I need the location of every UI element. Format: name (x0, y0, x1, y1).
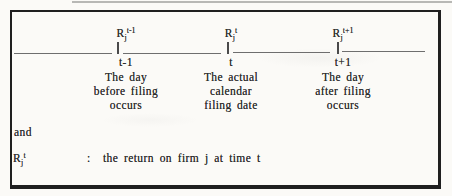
symbol-sup: t-1 (127, 26, 136, 35)
desc-line: occurs (278, 98, 408, 112)
scan-artifact-line (72, 1, 452, 3)
desc-line: after filing (278, 84, 408, 98)
symbol-base: R (13, 152, 21, 164)
symbol-sup: t+1 (343, 26, 354, 35)
point-description: The actual calendar filing date (166, 70, 296, 112)
time-label: t+1 (278, 56, 408, 70)
symbol-sup: t (235, 26, 237, 35)
timeline-point-t-plus-1: Rjt+1 t+1 The day after filing occurs (278, 24, 408, 112)
symbol-base: R (332, 27, 340, 39)
symbol-sup: t (24, 151, 27, 160)
colon-separator: : (87, 152, 90, 164)
point-description: The day after filing occurs (278, 70, 408, 112)
return-symbol: Rjt+1 (278, 24, 408, 39)
definition-text: the return on firm j at time t (103, 152, 261, 164)
desc-line: calendar (166, 84, 296, 98)
definition-symbol: Rjt (13, 151, 26, 167)
figure-canvas: Rjt-1 t-1 The day before filing occurs R… (0, 0, 452, 196)
time-label: t (166, 56, 296, 70)
spacer (166, 39, 296, 56)
desc-line: The actual (166, 70, 296, 84)
return-symbol: Rjt (166, 24, 296, 39)
desc-line: The day (278, 70, 408, 84)
timeline-point-t: Rjt t The actual calendar filing date (166, 24, 296, 112)
symbol-base: R (225, 27, 233, 39)
spacer (278, 39, 408, 56)
and-label: and (14, 126, 32, 138)
desc-line: filing date (166, 98, 296, 112)
